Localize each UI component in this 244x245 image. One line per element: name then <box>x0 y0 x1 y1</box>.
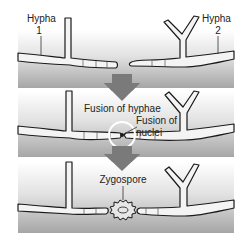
label-fusion-of-nuclei-line2: nuclei <box>136 127 162 138</box>
label-hypha-1-number: 1 <box>36 25 42 36</box>
zygospore-diagram: Hypha 1 Hypha 2 Fusion of hyphae Fusion … <box>0 0 244 245</box>
fused-nucleus <box>120 133 124 137</box>
label-fusion-of-hyphae: Fusion of hyphae <box>84 103 161 114</box>
stage-3-background <box>18 162 234 233</box>
label-zygospore: Zygospore <box>99 174 147 185</box>
label-hypha-1: Hypha <box>27 13 56 24</box>
stage-3-panel: Zygospore <box>18 146 234 233</box>
label-fusion-of-nuclei-line1: Fusion of <box>136 115 177 126</box>
label-hypha-2: Hypha <box>202 13 231 24</box>
zygospore-icon <box>110 200 136 220</box>
label-hypha-2-number: 2 <box>215 25 221 36</box>
